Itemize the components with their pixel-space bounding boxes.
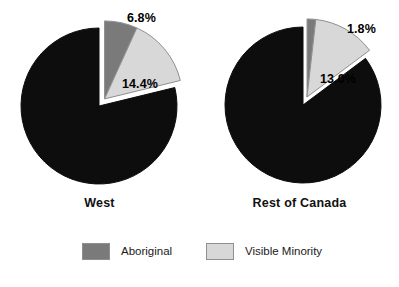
legend-swatch-aboriginal [82, 243, 110, 260]
legend-label-visible-minority: Visible Minority [245, 245, 322, 257]
pie-west [21, 18, 183, 184]
legend-item-visible-minority: Visible Minority [206, 240, 322, 262]
pie-rest-visible-minority-percent: 13.0% [320, 72, 356, 86]
pie-chart-figure: West Rest of Canada 6.8% 14.4% 1.8% 13.0… [0, 0, 399, 287]
pie-rest-aboriginal-percent: 1.8% [347, 22, 376, 36]
legend-swatch-visible-minority [206, 243, 234, 260]
pie-west-visible-minority-percent: 14.4% [122, 77, 158, 91]
pie-west-aboriginal-percent: 6.8% [127, 11, 156, 25]
chart-legend: Aboriginal Visible Minority [0, 240, 399, 266]
pie-west-caption: West [0, 196, 199, 210]
pie-rest-of-canada-caption: Rest of Canada [200, 196, 399, 210]
legend-item-aboriginal: Aboriginal [82, 240, 172, 262]
legend-label-aboriginal: Aboriginal [121, 245, 172, 257]
pie-rest-of-canada [225, 16, 381, 183]
